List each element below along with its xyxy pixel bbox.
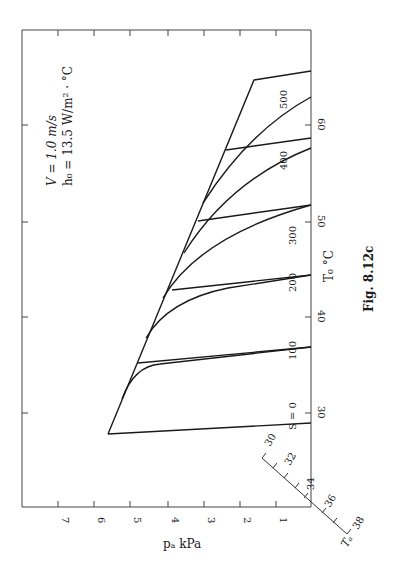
svg-text:3: 3 (206, 517, 217, 523)
ta-label-30: 30 (262, 431, 278, 448)
to-axis-label: T₀ °C (322, 250, 336, 282)
svg-text:6: 6 (96, 517, 107, 523)
svg-text:2: 2 (242, 517, 253, 523)
pa-tick-labels: 7 6 5 4 3 2 1 (60, 517, 289, 523)
curve-100 (122, 347, 311, 399)
svg-text:4: 4 (170, 517, 181, 523)
pa-axis-ticks (58, 501, 276, 507)
envelope-line (108, 71, 311, 434)
pa-axis-label: pₐ kPa (163, 537, 201, 551)
s-label-200: 200 (287, 273, 298, 292)
figure-caption: Fig. 8.12c (362, 246, 376, 312)
ta-label-34: 34 (305, 477, 316, 490)
chart-canvas: 7 6 5 4 3 2 1 pₐ kPa 60 50 40 30 T₀ °C F… (0, 0, 398, 579)
ta-scale (262, 453, 351, 534)
svg-text:50: 50 (316, 215, 327, 228)
s-label-500: 500 (278, 90, 289, 109)
ta-axis-label: Tₐ (338, 533, 355, 549)
ta-label-38: 38 (350, 514, 366, 531)
s-label-300: 300 (287, 226, 298, 245)
svg-text:30: 30 (316, 406, 327, 419)
s-label-400: 400 (278, 151, 289, 170)
to-axis-ticks (305, 125, 311, 413)
svg-text:1: 1 (278, 517, 289, 523)
s-line-400 (226, 138, 311, 150)
svg-text:5: 5 (132, 517, 143, 523)
ta-label-36: 36 (322, 492, 338, 509)
s-label-0: S = 0 (287, 402, 298, 430)
left-ticks (22, 125, 28, 413)
ta-label-32: 32 (282, 450, 298, 467)
s-label-100: 100 (287, 341, 298, 360)
param-heat-coefficient: h₀ = 13.5 W/m² · °C (61, 66, 75, 186)
svg-text:40: 40 (316, 310, 327, 323)
top-ticks (58, 30, 276, 36)
curve-500 (203, 97, 311, 203)
param-velocity: V = 1.0 m/s (45, 115, 59, 186)
s-line-0 (108, 423, 311, 434)
svg-text:7: 7 (60, 517, 71, 523)
svg-text:60: 60 (316, 118, 327, 131)
